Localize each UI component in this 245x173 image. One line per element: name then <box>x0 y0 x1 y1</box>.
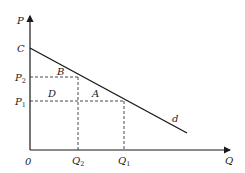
price-label-p1: P1 <box>14 96 26 109</box>
x-axis-label: Q <box>225 155 233 166</box>
y-axis-label: P <box>16 15 24 26</box>
intercept-label-c: C <box>17 43 25 54</box>
region-label-d: D <box>47 88 56 99</box>
demand-diagram: P Q 0 C d P2 P1 Q2 Q1 B D A <box>0 0 245 173</box>
quantity-label-q1: Q1 <box>118 155 130 168</box>
quantity-label-q2: Q2 <box>72 155 84 168</box>
origin-label: 0 <box>25 156 32 167</box>
region-label-b: B <box>56 66 64 77</box>
region-label-a: A <box>91 88 99 99</box>
price-label-p2: P2 <box>14 72 26 85</box>
curve-label-d: d <box>172 113 178 124</box>
